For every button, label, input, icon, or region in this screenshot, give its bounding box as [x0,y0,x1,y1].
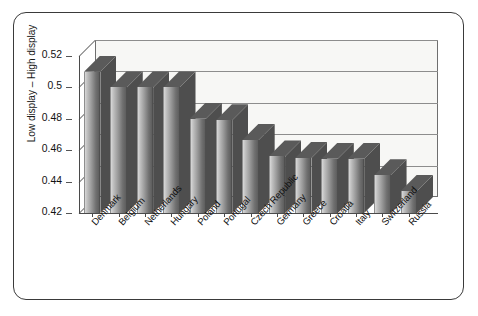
chart-figure: Low display – High display 0.520.50.480.… [0,0,478,316]
y-tick-label: 0.44 [30,175,62,186]
y-tick-mark [66,119,72,120]
plot-area: Low display – High display 0.520.50.480.… [0,0,478,316]
y-tick-label: 0.48 [30,112,62,123]
y-tick-label: 0.52 [30,49,62,60]
bar-front-face [84,72,100,213]
bar-front-face [216,120,232,213]
y-axis-line [79,56,80,213]
y-tick-label: 0.46 [30,143,62,154]
y-tick-label: 0.42 [30,206,62,217]
bar-front-face [374,175,390,213]
y-tick-label: 0.5 [30,80,62,91]
gridline [95,40,438,41]
y-tick-mark [66,182,72,183]
bar-front-face [137,87,153,213]
y-tick-connector [79,40,96,57]
y-tick-mark [66,87,72,88]
y-tick-mark [66,56,72,57]
y-tick-mark [66,150,72,151]
y-tick-mark [66,213,72,214]
